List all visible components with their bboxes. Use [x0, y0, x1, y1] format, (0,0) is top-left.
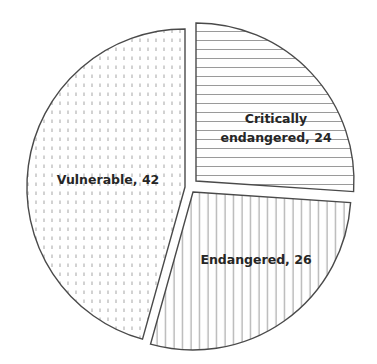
slice-critically-endangered[interactable] [196, 23, 354, 192]
slice-endangered[interactable] [151, 192, 351, 350]
label-vulnerable: Vulnerable, 42 [57, 172, 160, 187]
label-critically-endangered-line1: Critically [245, 111, 307, 126]
label-endangered: Endangered, 26 [200, 252, 312, 267]
pie-chart: Critically endangered, 24 Endangered, 26… [0, 0, 377, 364]
label-critically-endangered-line2: endangered, 24 [220, 130, 331, 145]
